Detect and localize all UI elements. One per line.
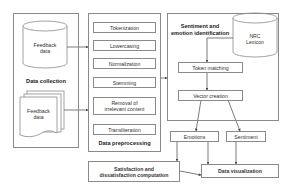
- sentiment-identification-label: Sentiment and emotion identification: [168, 23, 232, 36]
- data-visualization-box: Data visualization: [201, 164, 279, 178]
- sentiment-label-line2: emotion identification: [168, 30, 232, 37]
- satisfaction-label-line2: dissatisfaction computation: [100, 172, 169, 178]
- lexicon-label: NRC Lexicon: [233, 33, 277, 45]
- emotions-box: Emotions: [170, 131, 219, 142]
- sentiment-box: Sentiment: [226, 131, 266, 142]
- step-transliteration: Transliteration: [93, 124, 156, 135]
- satisfaction-computation-box: Satisfaction and dissatisfaction computa…: [88, 161, 180, 182]
- token-matching-box: Token matching: [178, 62, 243, 73]
- step-stemming: Stemming: [93, 77, 156, 88]
- step-removal-irrelevant: Removal of irrelevant content: [93, 97, 156, 115]
- documents-label-line2: data: [20, 114, 57, 120]
- data-collection-label: Data collection: [13, 78, 79, 85]
- removal-label-line2: irrelevant content: [105, 106, 145, 112]
- database-label-line2: data: [23, 48, 67, 54]
- step-normalization: Normalization: [93, 58, 156, 69]
- step-lowercasing: Lowercasing: [93, 40, 156, 51]
- data-preprocessing-label: Data preprocessing: [88, 140, 161, 147]
- documents-label: Feedback data: [20, 108, 57, 120]
- lexicon-label-line2: Lexicon: [233, 39, 277, 45]
- vector-creation-box: Vector creation: [178, 90, 243, 101]
- database-label: Feedback data: [23, 42, 67, 54]
- step-tokenization: Tokenization: [93, 22, 156, 33]
